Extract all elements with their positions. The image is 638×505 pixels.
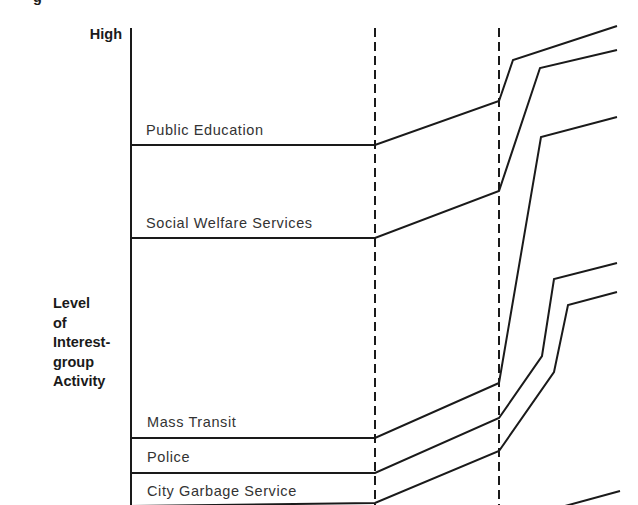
y-axis-title-line-3: Interest-: [53, 333, 110, 353]
y-axis-title-line-1: Level: [53, 294, 110, 314]
label-social-welfare-services: Social Welfare Services: [146, 215, 313, 231]
label-public-education: Public Education: [146, 122, 264, 138]
y-axis-high-label: High: [90, 26, 122, 42]
label-mass-transit: Mass Transit: [147, 414, 236, 430]
line-extra-bottom: [565, 491, 620, 505]
y-axis-title-line-2: of: [53, 314, 110, 334]
y-axis-title-line-4: group: [53, 353, 110, 373]
diagram-canvas: [0, 0, 638, 505]
label-police: Police: [147, 449, 190, 465]
line-mass-transit: [131, 117, 617, 438]
y-axis-title: Level of Interest- group Activity: [53, 294, 110, 392]
y-axis-title-line-5: Activity: [53, 372, 110, 392]
label-city-garbage-service: City Garbage Service: [147, 483, 297, 499]
cut-off-glyph: g: [33, 0, 42, 5]
